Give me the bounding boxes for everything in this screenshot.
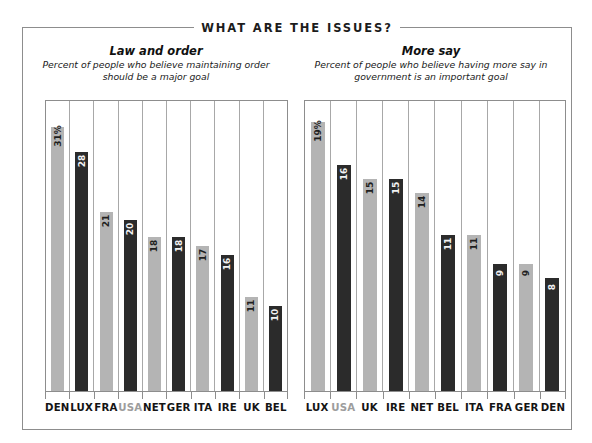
axis-tick [330, 392, 356, 400]
axis-tick [540, 392, 566, 400]
bar-value-label: 16 [222, 257, 232, 270]
chart-subtitle: Percent of people who believe maintainin… [24, 59, 288, 82]
bar-cell: 21 [94, 101, 118, 391]
bar-cell: 18 [143, 101, 167, 391]
bar-cell: 11 [435, 101, 461, 391]
plot-wrapper: 31%282120181817161110 DENLUXFRAUSANETGER… [24, 100, 288, 416]
plot-area: 31%282120181817161110 [45, 100, 288, 392]
category-labels: DENLUXFRAUSANETGERITAIREUKBEL [45, 401, 288, 417]
axis-tick [94, 392, 118, 400]
category-label-ita: ITA [461, 401, 487, 417]
bar-cell: 16 [215, 101, 239, 391]
bar-value-label: 11 [246, 300, 256, 313]
bar-value-label: 18 [174, 240, 184, 253]
bar-cell: 9 [514, 101, 540, 391]
plot-wrapper: 19%161515141111998 LUXUSAUKIRENETBELITAF… [294, 100, 568, 416]
bar-value-label: 18 [149, 240, 159, 253]
bar: 9 [493, 264, 507, 391]
axis-ticks [304, 392, 566, 400]
category-label-ire: IRE [215, 401, 239, 417]
bar: 28 [75, 152, 88, 391]
category-label-ger: GER [167, 401, 191, 417]
bar-cell: 14 [409, 101, 435, 391]
bar: 18 [148, 237, 161, 391]
bar-value-label: 28 [77, 155, 87, 168]
category-label-usa: USA [330, 401, 356, 417]
axis-tick [239, 392, 263, 400]
category-label-net: NET [142, 401, 166, 417]
bar-cell: 15 [383, 101, 409, 391]
bar: 9 [519, 264, 533, 391]
bar: 15 [389, 179, 403, 391]
axis-tick [215, 392, 239, 400]
axis-tick [191, 392, 215, 400]
bar-value-label: 19% [313, 120, 323, 142]
axis-tick [461, 392, 487, 400]
bar-cell: 9 [488, 101, 514, 391]
bar-cell: 17 [191, 101, 215, 391]
bar-cell: 11 [462, 101, 488, 391]
bar: 11 [467, 235, 481, 391]
bar-cell: 15 [357, 101, 383, 391]
bar-cell: 18 [167, 101, 191, 391]
bar-value-label: 20 [125, 223, 135, 236]
bar-value-label: 15 [365, 182, 375, 195]
bar: 16 [221, 255, 234, 391]
chart-title: Law and order [24, 44, 288, 58]
category-label-bel: BEL [435, 401, 461, 417]
chart-subtitle: Percent of people who believe having mor… [294, 59, 568, 82]
axis-tick [409, 392, 435, 400]
chart-panel-law-and-order: Law and order Percent of people who beli… [24, 44, 288, 416]
bar-value-label: 31% [53, 125, 63, 147]
bar-cell: 16 [331, 101, 357, 391]
axis-tick [166, 392, 190, 400]
category-label-ire: IRE [383, 401, 409, 417]
bar: 20 [124, 220, 137, 391]
bar: 21 [100, 212, 113, 391]
category-label-lux: LUX [304, 401, 330, 417]
axis-tick [435, 392, 461, 400]
bar: 8 [545, 278, 559, 391]
axis-tick [383, 392, 409, 400]
bar: 17 [196, 246, 209, 391]
bar-cell: 8 [540, 101, 565, 391]
plot-area: 19%161515141111998 [304, 100, 566, 392]
bar-value-label: 10 [270, 308, 280, 321]
category-label-bel: BEL [264, 401, 288, 417]
bar-cell: 11 [240, 101, 264, 391]
category-label-net: NET [409, 401, 435, 417]
category-label-fra: FRA [94, 401, 118, 417]
chart-panel-more-say: More say Percent of people who believe h… [294, 44, 568, 416]
bar-value-label: 15 [391, 182, 401, 195]
bar-value-label: 21 [101, 215, 111, 228]
bar-value-label: 14 [417, 196, 427, 209]
category-label-lux: LUX [70, 401, 94, 417]
bar-value-label: 16 [339, 167, 349, 180]
bar: 16 [337, 165, 351, 391]
bar-cell: 19% [305, 101, 331, 391]
bar: 15 [363, 179, 377, 391]
bar-value-label: 11 [469, 238, 479, 251]
bar-cell: 20 [119, 101, 143, 391]
axis-tick [514, 392, 540, 400]
bar: 19% [311, 122, 325, 391]
axis-tick [487, 392, 513, 400]
bar-cell: 28 [70, 101, 94, 391]
chart-page: WHAT ARE THE ISSUES? Law and order Perce… [0, 0, 592, 443]
bar-value-label: 8 [547, 284, 557, 290]
axis-tick [45, 392, 69, 400]
bar: 14 [415, 193, 429, 391]
category-label-ita: ITA [191, 401, 215, 417]
bar-cell: 31% [46, 101, 70, 391]
bar: 31% [51, 127, 64, 391]
bar: 18 [172, 237, 185, 391]
axis-tick [356, 392, 382, 400]
axis-tick [118, 392, 142, 400]
category-label-den: DEN [540, 401, 566, 417]
bar: 11 [245, 297, 258, 391]
category-label-ger: GER [514, 401, 540, 417]
category-label-uk: UK [356, 401, 382, 417]
axis-tick [69, 392, 93, 400]
bar-cell: 10 [264, 101, 287, 391]
bar: 11 [441, 235, 455, 391]
